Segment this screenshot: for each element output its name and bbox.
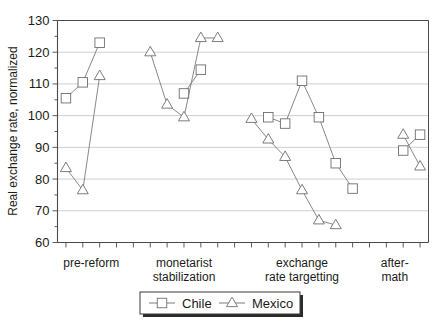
y-tick-label-120: 120 xyxy=(28,45,50,60)
datapoint-mexico-x9 xyxy=(212,32,223,42)
datapoint-chile-x7 xyxy=(179,89,189,99)
datapoint-mexico-x0 xyxy=(60,162,71,171)
datapoint-chile-x1 xyxy=(78,78,88,88)
category-label-2-line2: rate targetting xyxy=(265,270,339,284)
series-line-mexico-seg1 xyxy=(150,38,217,117)
datapoint-mexico-x6 xyxy=(162,99,173,109)
category-label-3-line2: math xyxy=(381,270,408,284)
datapoint-mexico-x14 xyxy=(297,184,308,194)
plot-border xyxy=(58,21,429,243)
category-label-3-line1: after- xyxy=(381,256,409,270)
datapoint-mexico-x5 xyxy=(145,46,156,56)
legend-marker-chile xyxy=(157,298,167,308)
datapoint-mexico-x2 xyxy=(94,70,105,80)
datapoint-chile-x13 xyxy=(280,119,290,129)
category-label-0-line1: pre-reform xyxy=(63,256,119,270)
datapoint-chile-x17 xyxy=(348,184,358,194)
y-axis-ticks xyxy=(53,21,58,243)
chart-container: 60708090100110120130 pre-reformmonetaris… xyxy=(0,0,438,327)
y-tick-label-130: 130 xyxy=(28,13,50,28)
category-label-1-line1: monetarist xyxy=(156,256,213,270)
category-label-2-line1: exchange xyxy=(276,256,328,270)
series-mexico xyxy=(60,32,425,229)
y-tick-label-100: 100 xyxy=(28,108,50,123)
legend-label-chile: Chile xyxy=(182,296,212,311)
legend-label-mexico: Mexico xyxy=(252,296,293,311)
datapoint-chile-x0 xyxy=(61,93,71,103)
datapoint-mexico-x15 xyxy=(313,214,324,224)
series-line-mexico-seg2 xyxy=(251,119,335,225)
datapoint-chile-x14 xyxy=(297,76,307,86)
datapoint-chile-x8 xyxy=(196,65,206,75)
x-axis-category-labels: pre-reformmonetariststabilizationexchang… xyxy=(63,256,409,284)
y-axis-tick-labels: 60708090100110120130 xyxy=(28,13,50,250)
real-exchange-rate-chart: 60708090100110120130 pre-reformmonetaris… xyxy=(0,0,438,327)
plot-frame xyxy=(58,21,429,243)
datapoint-mexico-x11 xyxy=(246,113,257,123)
x-axis-ticks xyxy=(66,243,420,248)
y-axis-title-text: Real exchange rate, normalized xyxy=(6,46,20,215)
y-tick-label-80: 80 xyxy=(35,172,49,187)
y-tick-label-90: 90 xyxy=(35,140,49,155)
datapoint-mexico-x20 xyxy=(398,129,409,139)
gridlines xyxy=(58,21,429,211)
series-line-chile-seg2 xyxy=(268,81,352,189)
chart-legend[interactable]: ChileMexico xyxy=(140,292,303,317)
y-tick-label-60: 60 xyxy=(35,235,49,250)
datapoint-mexico-x8 xyxy=(195,32,206,42)
datapoint-chile-x2 xyxy=(95,38,105,48)
datapoint-chile-x12 xyxy=(264,112,274,122)
datapoint-chile-x16 xyxy=(331,158,341,168)
datapoint-chile-x20 xyxy=(398,146,408,156)
datapoint-chile-x15 xyxy=(314,112,324,122)
datapoint-mexico-x7 xyxy=(178,111,189,121)
datapoint-chile-x21 xyxy=(415,130,425,140)
datapoint-mexico-x21 xyxy=(415,160,426,170)
category-label-1-line2: stabilization xyxy=(153,270,216,284)
y-tick-label-70: 70 xyxy=(35,203,49,218)
series-line-chile-seg0 xyxy=(66,43,100,98)
y-axis-title: Real exchange rate, normalized xyxy=(6,46,20,215)
series-layer xyxy=(60,32,425,229)
y-tick-label-110: 110 xyxy=(29,76,50,91)
